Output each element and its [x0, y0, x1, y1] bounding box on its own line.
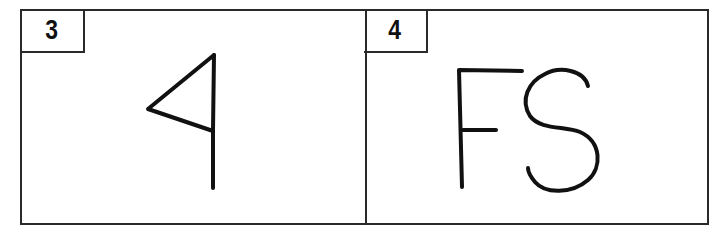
panel-3: 3 [22, 11, 367, 223]
panel-number: 3 [46, 15, 59, 46]
panel-4: 4 [365, 11, 707, 223]
panel-label-box: 4 [364, 10, 428, 53]
panel-label-box: 3 [21, 10, 85, 53]
panel-frame: 3 4 [20, 9, 709, 225]
panel-number: 4 [389, 15, 402, 46]
